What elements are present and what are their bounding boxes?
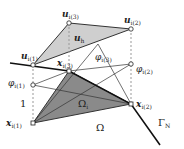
label-phi2: φi(2) bbox=[136, 64, 153, 75]
label-u2: ui(2) bbox=[124, 15, 141, 26]
label-omega: Ω bbox=[96, 122, 104, 133]
node-u1 bbox=[31, 63, 35, 67]
label-gamma-n: ΓN bbox=[158, 117, 170, 129]
label-phi1: φi(1) bbox=[8, 78, 25, 89]
node-u3 bbox=[67, 21, 71, 25]
node-phi1 bbox=[31, 83, 35, 87]
phi2-line-b bbox=[33, 64, 131, 123]
uh-triangle bbox=[33, 23, 131, 65]
finite-element-diagram: ui(3) ui(2) ui(1) uh xi(3) xi(2) xi(1) φ… bbox=[0, 0, 184, 149]
label-x3: xi(3) bbox=[56, 58, 73, 69]
label-u1: ui(1) bbox=[21, 51, 38, 62]
label-x1: xi(1) bbox=[5, 118, 22, 129]
label-u3: ui(3) bbox=[62, 9, 79, 20]
label-one: 1 bbox=[20, 98, 26, 109]
node-x2 bbox=[129, 102, 133, 106]
node-u2 bbox=[129, 27, 133, 31]
node-phi2 bbox=[129, 62, 133, 66]
node-x1 bbox=[31, 121, 35, 125]
label-x2: xi(2) bbox=[135, 99, 152, 110]
node-x3 bbox=[67, 69, 71, 73]
